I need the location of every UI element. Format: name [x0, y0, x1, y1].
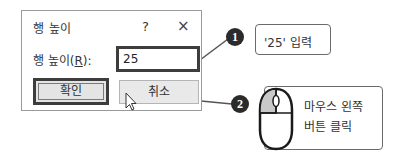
step-badge-2: 2	[231, 95, 249, 113]
row-height-label: 행 높이(R):	[33, 51, 92, 68]
mouse-left-click-icon	[257, 86, 295, 152]
ok-button-focus-ring	[38, 83, 104, 100]
callout-1-text: '25' 입력	[264, 36, 312, 50]
callout-2-line1: 마우스 왼쪽	[304, 97, 382, 117]
label-accelerator: R	[75, 54, 83, 68]
row-height-input[interactable]: 25	[116, 46, 200, 72]
row-height-dialog: 행 높이 ? × 행 높이(R): 25 확인 취소	[21, 10, 202, 111]
callout-1-box: '25' 입력	[255, 24, 331, 55]
close-icon[interactable]: ×	[177, 17, 190, 35]
dialog-title: 행 높이	[33, 19, 72, 36]
step-badge-1: 1	[226, 28, 244, 46]
callout-2-line2: 버튼 클릭	[304, 117, 382, 137]
ok-button[interactable]: 확인	[33, 78, 109, 105]
label-prefix: 행 높이(	[33, 54, 75, 68]
label-suffix: ):	[83, 54, 92, 68]
help-icon[interactable]: ?	[142, 19, 149, 34]
mouse-pointer-icon	[125, 92, 139, 112]
